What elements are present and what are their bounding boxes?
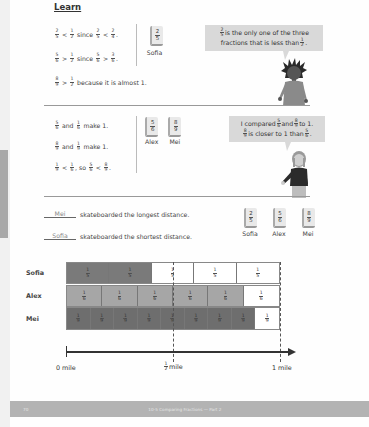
card-label: Mei [169,138,180,145]
fraction: 56 [55,121,59,131]
part1-divider [136,24,137,66]
part1-reasoning: 25 < 12 since 25 < 24.56 > 12 since 56 >… [54,22,144,94]
fraction: 12 [70,29,74,39]
bar-row-label: Mei [26,315,39,323]
reasoning-line: 25 < 12 since 25 < 24. [54,22,144,46]
bar-segment: 16 [244,286,279,306]
half-mile-marker [173,262,174,362]
part2-card-group: 56 Alex 89 Mei [145,117,181,145]
number-line [66,351,289,353]
fraction: 12 [70,53,74,63]
card-mei: 89 Mei [300,208,316,237]
card-fraction: 2 5 [155,29,159,40]
bar-segment: 16 [208,286,243,306]
fraction: 56 [55,53,59,63]
card-label: Mei [303,230,314,237]
card-label: Sofia [146,49,163,56]
part2-divider [136,116,137,173]
axis-label-start: 0 mile [56,364,76,372]
lesson-title: 10-5 Comparing Fractions — Part 2 [148,407,221,412]
textbook-page: Learn 25 < 12 since 25 < 24.56 > 12 sinc… [10,0,369,427]
page-number: 70 [23,407,28,412]
fraction-card: 25 [244,208,257,228]
bar-segment: 16 [102,286,137,306]
fraction: 56 [96,53,100,63]
bar-row-label: Alex [26,292,42,300]
fraction: 15 [256,268,260,278]
student-illustration-girl [280,150,312,198]
bar-segment: 15 [237,263,279,283]
bar-segment: 19 [208,308,232,329]
fraction: 16 [153,291,157,301]
section-title: Learn [54,2,81,12]
fraction: 56 [89,163,93,173]
answer-shortest: Sofia skateboarded the shortest distance… [44,232,192,240]
side-tab [0,150,8,238]
section-divider-2 [44,196,310,197]
fraction-card: 56 [273,208,286,228]
one-mile-marker [280,262,281,362]
part2-speech: I compared 56 and 89 to 1. 89 is closer … [229,116,325,151]
fraction: 19 [77,142,81,152]
fraction: 19 [218,314,222,324]
bar-segment: 19 [138,308,162,329]
fraction: 12 [70,77,74,87]
part1-card-group: 2 5 Sofia [148,26,163,56]
bar-segment: 16 [67,286,102,306]
card-label: Sofia [242,230,257,237]
fraction: 25 [96,29,100,39]
fraction: 15 [128,268,132,278]
fraction: 15 [213,268,217,278]
bar-segment: 15 [109,263,151,283]
bar-segment: 19 [232,308,256,329]
fraction-card: 56 [145,117,158,137]
answer-blank-shortest[interactable]: Sofia [44,232,76,240]
section-divider-1 [44,105,310,106]
bar-segment: 16 [173,286,208,306]
reasoning-line: 89 and 19 make 1. [54,136,144,157]
fraction: 89 [55,77,59,87]
bar-segment: 19 [91,308,115,329]
fraction: 19 [265,314,269,324]
part1-speech: 25 is the only one of the three fraction… [205,25,323,60]
bar-segment: 15 [67,263,109,283]
fraction: 19 [241,314,245,324]
card-mei: 89 Mei [168,117,181,145]
fraction: 25 [55,29,59,39]
speech-bubble: 25 is the only one of the three fraction… [205,25,323,51]
answer-blank-longest[interactable]: Mei [44,210,76,218]
fraction: 16 [259,291,263,301]
part2-reasoning: 56 and 16 make 1.89 and 19 make 1.19 < 1… [54,115,144,178]
fraction: 16 [70,163,74,173]
axis-label-end: 1 mile [272,364,292,372]
bar-segment: 19 [255,308,279,329]
card-alex: 56 Alex [145,117,158,145]
fraction: 24 [111,29,115,39]
speech-bubble: I compared 56 and 89 to 1. 89 is closer … [229,116,325,142]
fraction: 19 [76,314,80,324]
fraction: 19 [55,163,59,173]
reasoning-line: 19 < 16, so 56 < 89. [54,157,144,178]
bar-segment: 19 [67,308,91,329]
reasoning-line: 56 > 12 since 56 > 36. [54,46,144,70]
fraction: 16 [82,291,86,301]
card-sofia: 25 Sofia [242,208,258,237]
fraction: 16 [188,291,192,301]
answer-longest: Mei skateboarded the longest distance. [44,210,189,218]
page-footer: 70 10-5 Comparing Fractions — Part 2 [10,401,369,417]
answer-card-group: 25 Sofia 56 Alex 89 Mei [242,208,316,237]
reasoning-line: 89 > 12 because it is almost 1. [54,70,144,94]
fraction: 16 [77,121,81,131]
fraction-card: 89 [168,117,181,137]
tick-start [66,346,67,357]
bar-segment: 19 [185,308,209,329]
fraction-card: 2 5 [150,26,163,46]
fraction: 19 [100,314,104,324]
reasoning-line: 56 and 16 make 1. [54,115,144,136]
bar-row-label: Sofia [26,269,44,277]
axis-label-half: 12 mile [163,362,183,372]
fraction: 16 [224,291,228,301]
bar-segment: 16 [138,286,173,306]
bar-segment: 15 [194,263,236,283]
card-alex: 56 Alex [271,208,287,237]
